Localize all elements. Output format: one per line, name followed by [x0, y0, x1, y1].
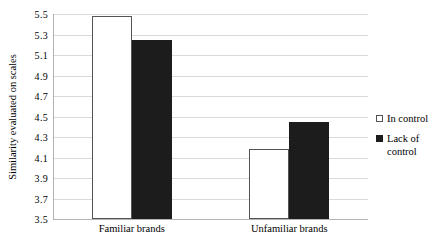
bar-chart-figure: Similarity evaluated on scales In contro… — [0, 0, 444, 245]
bar-in-control-familiar-brands — [92, 16, 132, 219]
legend-swatch-lack-of-control — [376, 135, 383, 142]
y-axis-line — [53, 14, 54, 219]
gridline — [53, 14, 368, 15]
y-tick-label: 4.1 — [26, 152, 48, 163]
y-axis-title: Similarity evaluated on scales — [7, 54, 18, 180]
y-tick-label: 5.3 — [26, 29, 48, 40]
y-tick-label: 4.5 — [26, 111, 48, 122]
x-category-label: Unfamiliar brands — [251, 223, 328, 234]
legend: In controlLack of control — [376, 112, 437, 158]
legend-label: In control — [387, 112, 437, 125]
y-tick-label: 3.5 — [26, 214, 48, 225]
y-tick-label: 4.7 — [26, 91, 48, 102]
y-tick-label: 4.3 — [26, 132, 48, 143]
y-tick-label: 5.5 — [26, 9, 48, 20]
y-tick-label: 3.9 — [26, 173, 48, 184]
x-axis-line — [53, 219, 368, 220]
x-category-label: Familiar brands — [99, 223, 165, 234]
legend-swatch-in-control — [376, 115, 383, 122]
plot-area — [53, 14, 368, 219]
legend-item: In control — [376, 112, 437, 125]
bar-lack-of-control-familiar-brands — [132, 40, 172, 219]
bar-in-control-unfamiliar-brands — [249, 149, 289, 219]
y-tick-label: 3.7 — [26, 193, 48, 204]
legend-item: Lack of control — [376, 132, 437, 158]
y-tick-label: 5.1 — [26, 50, 48, 61]
bar-lack-of-control-unfamiliar-brands — [289, 122, 329, 219]
y-tick-label: 4.9 — [26, 70, 48, 81]
legend-label: Lack of control — [387, 132, 437, 158]
